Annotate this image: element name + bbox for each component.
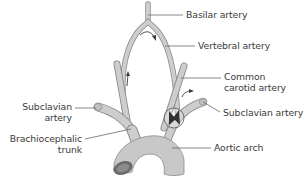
- label-aortic-arch: Aortic arch: [214, 143, 263, 154]
- label-subclavian-artery-left: Subclavian artery: [22, 102, 72, 123]
- leader-subclavian-right: [203, 102, 220, 112]
- label-subclavian-artery-right: Subclavian artery: [223, 108, 303, 119]
- flow-arrow-subclavian: [182, 89, 194, 97]
- flow-arrow-vertebral-up: [126, 71, 130, 86]
- label-common-carotid-artery: Common carotid artery: [224, 72, 286, 93]
- label-basilar-artery: Basilar artery: [186, 10, 247, 21]
- flow-arrow-basilar-curve: [140, 32, 156, 41]
- stenosis-circle: [164, 108, 184, 128]
- diagram-canvas: .v { fill: #c8c8c8; stroke: #8a8a8a; str…: [0, 0, 308, 181]
- label-vertebral-artery: Vertebral artery: [198, 41, 270, 52]
- aortic-arch: [112, 136, 184, 177]
- label-brachiocephalic-trunk: Brachiocephalic trunk: [10, 134, 82, 155]
- leader-brachiocephalic: [85, 129, 131, 139]
